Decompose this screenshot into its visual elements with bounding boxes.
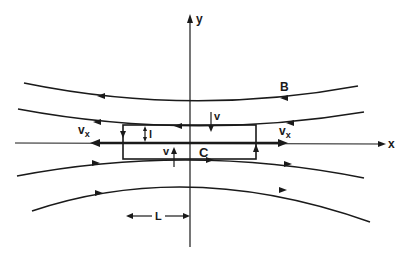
inflow-top: v	[208, 110, 221, 132]
outflow-arrows	[90, 139, 288, 147]
arrow-right-icon	[95, 190, 103, 196]
field-line-2	[18, 109, 364, 129]
inflow-top-label: v	[214, 110, 221, 122]
arrow-up-icon	[143, 126, 147, 131]
x-axis-label: x	[388, 137, 395, 151]
y-axis-arrowhead-icon	[187, 14, 193, 23]
arrow-up-icon	[253, 144, 259, 152]
arrow-left-icon	[90, 139, 100, 147]
arrow-up-icon	[171, 147, 177, 154]
vx-right-label: vx	[279, 124, 291, 140]
inflow-bottom: v	[163, 145, 177, 167]
thickness-label: l	[149, 128, 152, 140]
thickness-marker: l	[143, 126, 152, 142]
diagram-canvas: y x	[0, 0, 405, 262]
field-label: B	[280, 80, 289, 94]
arrow-down-icon	[143, 137, 147, 142]
x-axis-arrowhead-icon	[378, 141, 386, 147]
vx-left-label: vx	[78, 123, 90, 139]
length-marker: L	[126, 210, 190, 222]
arrow-down-icon	[120, 131, 126, 138]
contour-label: C	[199, 145, 209, 160]
length-label: L	[155, 210, 162, 222]
arrow-left-icon	[126, 213, 133, 219]
field-line-1	[24, 83, 358, 101]
arrow-left-icon	[174, 123, 182, 129]
arrow-left-icon	[97, 93, 105, 99]
arrow-down-icon	[208, 125, 214, 132]
y-axis-label: y	[196, 12, 203, 26]
arrow-right-icon	[278, 139, 288, 147]
field-line-4	[32, 187, 370, 222]
arrow-right-icon	[183, 213, 190, 219]
arrow-right-icon	[279, 187, 287, 193]
y-axis: y	[187, 12, 203, 247]
inflow-bottom-label: v	[163, 145, 170, 157]
